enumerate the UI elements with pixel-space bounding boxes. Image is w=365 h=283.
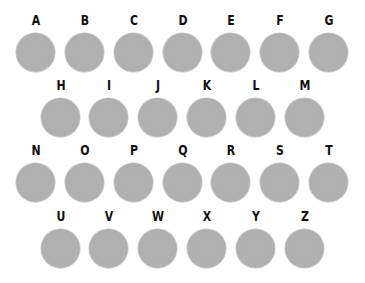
- key-label: O: [69, 143, 100, 157]
- key-label: I: [93, 78, 124, 92]
- letter-button-u[interactable]: [41, 229, 80, 268]
- letter-button-w[interactable]: [138, 229, 177, 268]
- key-s: S: [260, 143, 300, 203]
- letter-button-i[interactable]: [89, 98, 128, 137]
- key-label: D: [167, 13, 198, 27]
- letter-button-f[interactable]: [260, 33, 299, 72]
- letter-button-a[interactable]: [16, 33, 55, 72]
- key-h: H: [41, 78, 81, 138]
- letter-button-d[interactable]: [163, 33, 202, 72]
- key-d: D: [163, 13, 203, 73]
- key-label: H: [45, 78, 76, 92]
- key-label: M: [289, 78, 320, 92]
- key-f: F: [260, 13, 300, 73]
- key-u: U: [41, 209, 81, 269]
- letter-button-n[interactable]: [16, 163, 55, 202]
- key-x: X: [187, 209, 227, 269]
- letter-button-board: A B C D E F G H I J K L: [0, 0, 365, 283]
- key-y: Y: [236, 209, 276, 269]
- key-c: C: [114, 13, 154, 73]
- key-label: C: [118, 13, 149, 27]
- key-p: P: [114, 143, 154, 203]
- letter-button-g[interactable]: [309, 33, 348, 72]
- letter-button-z[interactable]: [285, 229, 324, 268]
- key-label: A: [20, 13, 51, 27]
- letter-button-k[interactable]: [187, 98, 226, 137]
- key-k: K: [187, 78, 227, 138]
- key-label: F: [264, 13, 295, 27]
- key-q: Q: [163, 143, 203, 203]
- key-label: B: [69, 13, 100, 27]
- key-i: I: [89, 78, 129, 138]
- letter-button-v[interactable]: [89, 229, 128, 268]
- key-label: N: [20, 143, 51, 157]
- key-r: R: [211, 143, 251, 203]
- key-label: T: [313, 143, 344, 157]
- letter-button-s[interactable]: [260, 163, 299, 202]
- letter-button-l[interactable]: [236, 98, 275, 137]
- key-label: Q: [167, 143, 198, 157]
- key-label: P: [118, 143, 149, 157]
- letter-button-e[interactable]: [211, 33, 250, 72]
- key-w: W: [138, 209, 178, 269]
- key-label: V: [93, 209, 124, 223]
- key-label: E: [215, 13, 246, 27]
- key-a: A: [16, 13, 56, 73]
- letter-button-b[interactable]: [65, 33, 104, 72]
- key-label: W: [142, 209, 173, 223]
- key-n: N: [16, 143, 56, 203]
- key-v: V: [89, 209, 129, 269]
- key-g: G: [309, 13, 349, 73]
- key-t: T: [309, 143, 349, 203]
- key-j: J: [138, 78, 178, 138]
- letter-button-p[interactable]: [114, 163, 153, 202]
- letter-button-r[interactable]: [211, 163, 250, 202]
- letter-button-j[interactable]: [138, 98, 177, 137]
- key-label: K: [191, 78, 222, 92]
- letter-button-m[interactable]: [285, 98, 324, 137]
- key-e: E: [211, 13, 251, 73]
- key-o: O: [65, 143, 105, 203]
- key-label: S: [264, 143, 295, 157]
- key-label: G: [313, 13, 344, 27]
- letter-button-c[interactable]: [114, 33, 153, 72]
- key-label: Y: [240, 209, 271, 223]
- key-l: L: [236, 78, 276, 138]
- key-label: L: [240, 78, 271, 92]
- letter-button-q[interactable]: [163, 163, 202, 202]
- key-label: Z: [289, 209, 320, 223]
- key-b: B: [65, 13, 105, 73]
- key-label: R: [215, 143, 246, 157]
- letter-button-y[interactable]: [236, 229, 275, 268]
- letter-button-o[interactable]: [65, 163, 104, 202]
- key-m: M: [285, 78, 325, 138]
- letter-button-t[interactable]: [309, 163, 348, 202]
- letter-button-h[interactable]: [41, 98, 80, 137]
- key-label: X: [191, 209, 222, 223]
- letter-button-x[interactable]: [187, 229, 226, 268]
- key-z: Z: [285, 209, 325, 269]
- key-label: J: [142, 78, 173, 92]
- key-label: U: [45, 209, 76, 223]
